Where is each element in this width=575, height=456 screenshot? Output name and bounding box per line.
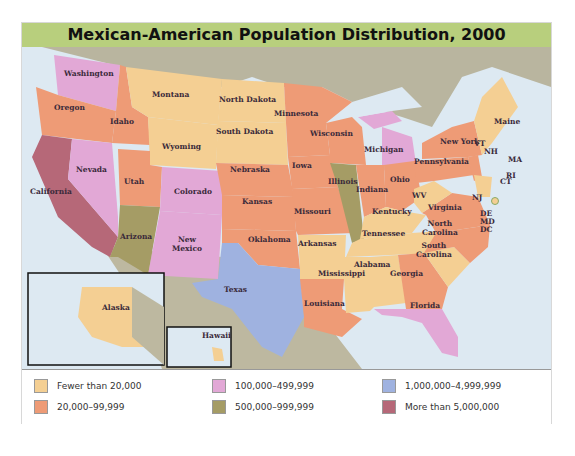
label-nebraska: Nebraska xyxy=(230,165,270,174)
label-georgia: Georgia xyxy=(390,269,423,278)
label-arkansas: Arkansas xyxy=(298,239,337,248)
legend-swatch xyxy=(382,379,396,393)
label-nj: NJ xyxy=(472,193,482,202)
label-texas: Texas xyxy=(224,285,247,294)
label-michigan: Michigan xyxy=(364,145,404,154)
legend-item: 100,000–499,999 xyxy=(212,379,314,393)
label-illinois: Illinois xyxy=(328,177,358,186)
label-new-mexico: NewMexico xyxy=(172,235,202,253)
label-south-dakota: South Dakota xyxy=(216,127,273,136)
legend-item: 1,000,000–4,999,999 xyxy=(382,379,501,393)
label-arizona: Arizona xyxy=(120,232,152,241)
label-utah: Utah xyxy=(124,177,144,186)
label-indiana: Indiana xyxy=(356,185,388,194)
label-virginia: Virginia xyxy=(428,203,462,212)
label-colorado: Colorado xyxy=(174,187,212,196)
label-alabama: Alabama xyxy=(354,260,390,269)
label-ma: MA xyxy=(508,155,522,164)
title-bar: Mexican-American Population Distribution… xyxy=(22,23,551,47)
legend-swatch xyxy=(34,379,48,393)
label-dc: DC xyxy=(480,225,492,234)
legend-item: More than 5,000,000 xyxy=(382,400,499,414)
legend-swatch xyxy=(382,400,396,414)
label-montana: Montana xyxy=(152,90,189,99)
dc-marker xyxy=(492,198,499,205)
legend-swatch xyxy=(212,379,226,393)
label-nevada: Nevada xyxy=(76,165,107,174)
label-florida: Florida xyxy=(410,301,440,310)
label-missouri: Missouri xyxy=(294,207,331,216)
label-wv: WV xyxy=(412,191,426,200)
label-minnesota: Minnesota xyxy=(274,109,318,118)
label-california: California xyxy=(30,187,72,196)
label-pennsylvania: Pennsylvania xyxy=(414,157,469,166)
label-wisconsin: Wisconsin xyxy=(310,129,353,138)
map-title: Mexican-American Population Distribution… xyxy=(67,25,505,44)
legend-item: Fewer than 20,000 xyxy=(34,379,142,393)
state-wisconsin xyxy=(326,117,366,165)
label-kansas: Kansas xyxy=(242,197,272,206)
label-north-dakota: North Dakota xyxy=(219,95,276,104)
legend-swatch xyxy=(212,400,226,414)
legend: Fewer than 20,000 20,000–99,999 100,000–… xyxy=(22,369,551,424)
label-ohio: Ohio xyxy=(390,175,410,184)
label-oregon: Oregon xyxy=(54,103,85,112)
label-tennessee: Tennessee xyxy=(362,229,405,238)
label-mississippi: Mississippi xyxy=(318,269,365,278)
label-wyoming: Wyoming xyxy=(162,142,201,151)
legend-swatch xyxy=(34,400,48,414)
label-nh: NH xyxy=(484,147,498,156)
us-map: Washington Oregon California Idaho Nevad… xyxy=(22,47,551,369)
label-north-carolina: NorthCarolina xyxy=(422,219,458,237)
label-oklahoma: Oklahoma xyxy=(248,235,291,244)
state-florida xyxy=(374,309,458,357)
label-washington: Washington xyxy=(64,69,114,78)
label-iowa: Iowa xyxy=(292,161,312,170)
label-ct: CT xyxy=(500,177,512,186)
legend-item: 20,000–99,999 xyxy=(34,400,124,414)
label-south-carolina: SouthCarolina xyxy=(416,241,452,259)
label-hawaii: Hawaii xyxy=(202,331,231,340)
label-maine: Maine xyxy=(494,117,520,126)
label-louisiana: Louisiana xyxy=(304,299,345,308)
map-figure: Mexican-American Population Distribution… xyxy=(21,22,552,424)
legend-item: 500,000–999,999 xyxy=(212,400,314,414)
label-alaska: Alaska xyxy=(102,303,130,312)
label-idaho: Idaho xyxy=(110,117,134,126)
label-kentucky: Kentucky xyxy=(372,207,412,216)
map-shapes xyxy=(22,47,551,369)
